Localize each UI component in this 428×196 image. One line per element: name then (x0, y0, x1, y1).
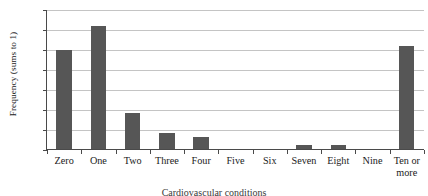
bar (91, 26, 106, 149)
bar-slot (150, 10, 184, 149)
bar-slot (116, 10, 150, 149)
x-tick-label: Eight (321, 155, 355, 178)
bar (399, 46, 414, 149)
x-tick-label: Four (184, 155, 218, 178)
x-tick-mark (47, 150, 48, 154)
x-tick-mark (184, 150, 185, 154)
y-axis-title: Frequency (sums to 1) (8, 4, 18, 144)
x-tick-label: Ten or more (390, 155, 424, 178)
x-tick-label: Five (218, 155, 252, 178)
x-tick-mark (150, 150, 151, 154)
x-tick-mark (81, 150, 82, 154)
bar-series (47, 10, 424, 149)
bar-slot (47, 10, 81, 149)
x-tick-label: One (81, 155, 115, 178)
x-axis-labels: ZeroOneTwoThreeFourFiveSixSevenEightNine… (47, 155, 424, 178)
x-tick-mark (253, 150, 254, 154)
bar-chart-figure: Frequency (sums to 1) .35.30.25.20.15.10… (0, 0, 428, 196)
bar-slot (184, 10, 218, 149)
bar (125, 113, 140, 149)
x-tick-mark (321, 150, 322, 154)
x-tick-label: Seven (287, 155, 321, 178)
bar-slot (321, 10, 355, 149)
bar (56, 50, 71, 149)
x-tick-mark (424, 150, 425, 154)
x-tick-mark (218, 150, 219, 154)
bar-slot (218, 10, 252, 149)
bar (159, 133, 174, 149)
bar (296, 145, 311, 149)
x-tick-label: Three (150, 155, 184, 178)
bar (331, 145, 346, 149)
x-tick-mark (355, 150, 356, 154)
bar-slot (355, 10, 389, 149)
x-tick-label: Six (253, 155, 287, 178)
bar-slot (81, 10, 115, 149)
x-tick-mark (116, 150, 117, 154)
bar-slot (253, 10, 287, 149)
x-tick-label: Zero (47, 155, 81, 178)
bar (193, 137, 208, 149)
x-tick-label: Nine (355, 155, 389, 178)
bar-slot (287, 10, 321, 149)
figure-caption: Cardiovascular conditions (0, 187, 428, 196)
bar-slot (390, 10, 424, 149)
plot-area: .35.30.25.20.15.10.50 (46, 10, 424, 150)
x-tick-mark (390, 150, 391, 154)
x-tick-mark (287, 150, 288, 154)
x-tick-label: Two (116, 155, 150, 178)
